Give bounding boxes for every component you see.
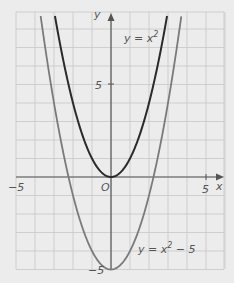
curve2-label-suffix: − 5 — [172, 243, 195, 256]
parabola-chart: y x O −5 5 5 −5 y = x2 y = x2 − 5 — [0, 0, 234, 283]
origin-label: O — [101, 181, 110, 194]
curve2-label-base: y = x — [137, 243, 168, 256]
curve1-label-base: y = x — [123, 32, 154, 45]
curve1-label: y = x2 — [123, 30, 158, 45]
y-axis-arrow-icon — [108, 13, 115, 21]
curve1-label-sup: 2 — [153, 30, 158, 39]
y-tick-label-neg5: −5 — [88, 264, 104, 277]
y-tick-label-5: 5 — [95, 79, 102, 92]
y-axis-label: y — [93, 8, 101, 21]
curve2-label: y = x2 − 5 — [137, 241, 196, 256]
grid — [16, 12, 225, 270]
x-tick-label-neg5: −5 — [8, 181, 24, 194]
x-tick-label-5: 5 — [202, 183, 209, 196]
x-axis-label: x — [215, 180, 223, 193]
axes — [16, 13, 224, 269]
